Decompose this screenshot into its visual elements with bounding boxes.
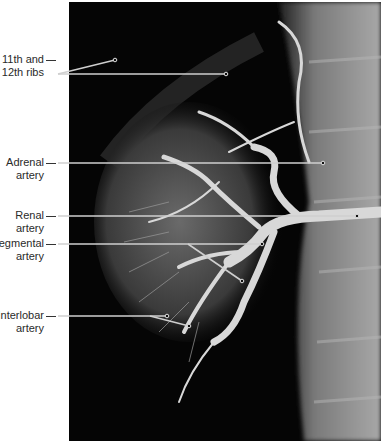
label-ribs: 11th and 12th ribs	[2, 53, 56, 79]
label-interlobar-artery: Interlobar artery	[0, 309, 56, 335]
label-renal-line1: Renal	[15, 209, 44, 221]
renal-arteriogram-image	[69, 2, 381, 441]
label-adrenal-line2: artery	[6, 169, 44, 182]
label-segmental-artery: Segmental artery	[0, 237, 56, 263]
xray-drawing	[69, 2, 381, 441]
label-renal-artery: Renal artery	[15, 209, 56, 235]
label-segmental-line1: Segmental	[0, 237, 44, 249]
label-renal-line2: artery	[15, 222, 44, 235]
label-segmental-line2: artery	[0, 250, 44, 263]
label-ribs-line2: 12th ribs	[2, 66, 44, 79]
label-adrenal-artery: Adrenal artery	[6, 156, 56, 182]
label-interlobar-line1: Interlobar	[0, 309, 44, 321]
label-ribs-line1: 11th and	[2, 53, 44, 65]
label-interlobar-line2: artery	[0, 322, 44, 335]
label-adrenal-line1: Adrenal	[6, 156, 44, 168]
